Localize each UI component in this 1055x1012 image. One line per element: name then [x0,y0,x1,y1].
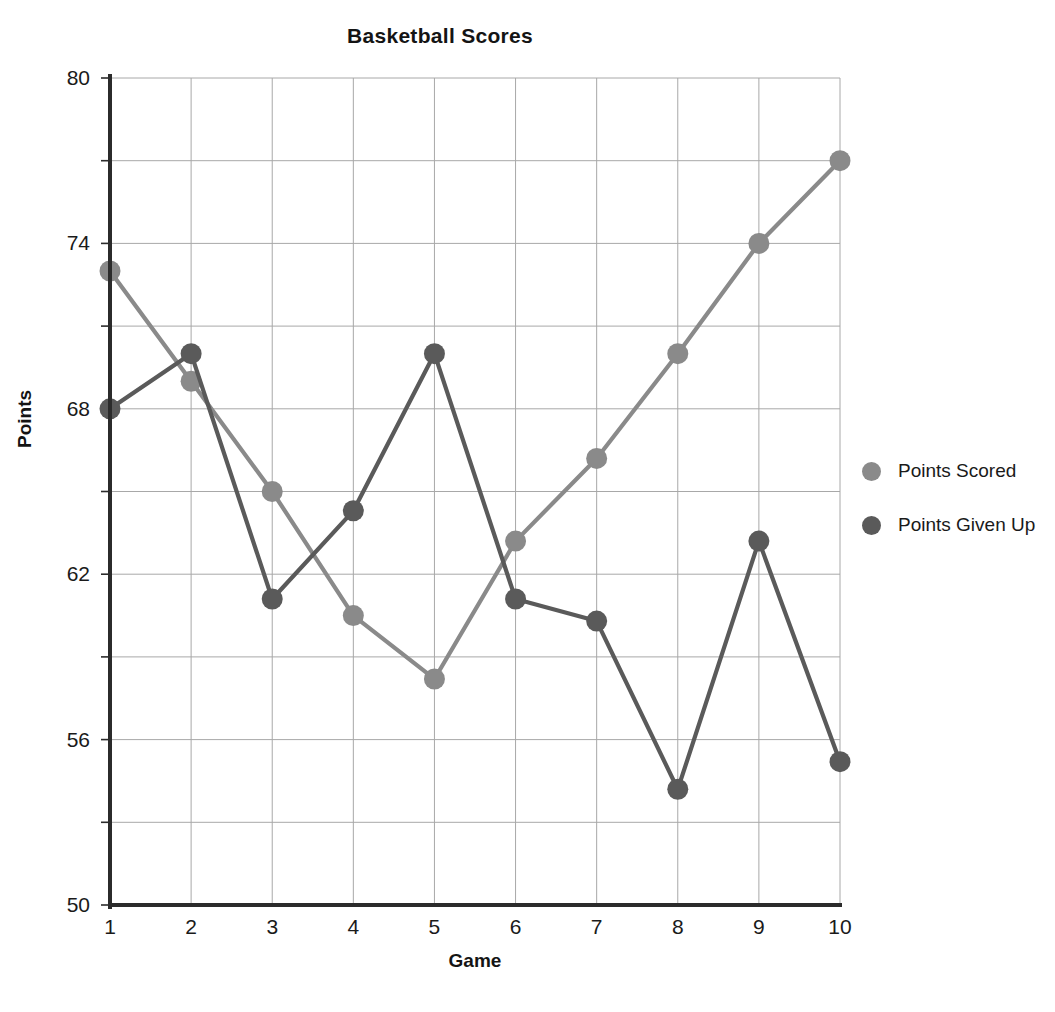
y-axis-title: Points [14,390,36,448]
y-axis-tick-label: 68 [32,397,90,421]
data-point-marker [830,751,851,772]
legend-label: Points Given Up [898,514,1035,536]
x-axis-tick-label: 7 [572,915,622,939]
y-axis-tick-label: 80 [32,66,90,90]
y-axis-tick-label: 56 [32,728,90,752]
x-axis-tick-label: 8 [653,915,703,939]
data-point-marker [586,611,607,632]
y-axis-tick-label: 74 [32,231,90,255]
data-point-marker [181,343,202,364]
x-axis-tick-label: 9 [734,915,784,939]
x-axis-tick-label: 6 [491,915,541,939]
data-point-marker [586,448,607,469]
x-axis-tick-label: 2 [166,915,216,939]
data-point-marker [667,343,688,364]
data-point-marker [667,779,688,800]
data-point-marker [262,589,283,610]
series-points-given-up [100,343,851,800]
data-point-marker [830,150,851,171]
legend-entry[interactable]: Points Given Up [862,498,1052,552]
data-series-layer [110,78,840,905]
x-axis-tick-label: 5 [409,915,459,939]
x-axis-tick-labels: 12345678910 [110,915,840,947]
data-point-marker [343,500,364,521]
y-axis-line [108,74,112,909]
legend-marker-icon [862,516,881,535]
y-axis-tick-label: 62 [32,562,90,586]
data-point-marker [505,589,526,610]
chart-legend: Points ScoredPoints Given Up [862,444,1052,552]
legend-marker-icon [862,462,881,481]
y-axis-tick-labels: 505662687480 [20,78,90,905]
x-axis-tick-label: 4 [328,915,378,939]
plot-area [110,78,840,905]
series-line [110,161,840,679]
x-axis-tick-label: 10 [815,915,865,939]
y-axis-tick-label: 50 [32,893,90,917]
legend-entry[interactable]: Points Scored [862,444,1052,498]
legend-label: Points Scored [898,460,1016,482]
x-axis-tick-label: 1 [85,915,135,939]
data-point-marker [748,531,769,552]
data-point-marker [748,233,769,254]
basketball-scores-chart: Basketball Scores 505662687480 123456789… [0,0,1055,1012]
data-point-marker [424,668,445,689]
x-axis-tick-label: 3 [247,915,297,939]
data-point-marker [505,531,526,552]
x-axis-line [108,903,842,907]
data-point-marker [262,481,283,502]
data-point-marker [424,343,445,364]
x-axis-title: Game [110,950,840,972]
data-point-marker [343,605,364,626]
chart-title: Basketball Scores [0,24,880,48]
